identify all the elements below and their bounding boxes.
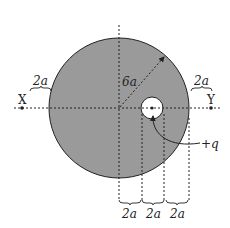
bottom-brace-3 (166, 200, 188, 205)
bottom-brace-1 (119, 200, 141, 205)
label-charge: +q (201, 137, 219, 151)
label-bottom-3: 2a (169, 207, 185, 221)
label-radius: 6a (122, 75, 137, 89)
charged-sphere-with-cavity-diagram: X Y 6a 2a 2a +q 2a 2a 2a (0, 0, 230, 228)
label-point-x: X (18, 93, 27, 107)
label-bottom-2: 2a (145, 207, 161, 221)
label-left-gap: 2a (32, 74, 48, 88)
charge-point (150, 106, 153, 109)
label-bottom-1: 2a (121, 207, 137, 221)
bottom-brace-2 (142, 200, 164, 205)
label-point-y: Y (206, 93, 216, 107)
label-right-gap: 2a (193, 74, 209, 88)
